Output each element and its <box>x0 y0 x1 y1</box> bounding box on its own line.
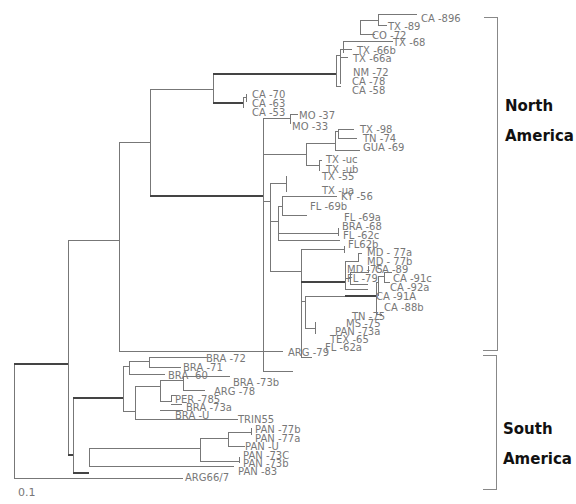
leaf-label: BRA -U <box>175 410 209 421</box>
leaf-label: BRA -60 <box>168 370 208 381</box>
region-label-north-america: North America <box>505 91 574 151</box>
leaf-label: ARG66/7 <box>185 472 229 483</box>
region-label-line: South <box>503 414 572 444</box>
leaf-label: TX -68 <box>392 37 425 48</box>
region-label-line: America <box>505 121 574 151</box>
leaf-label: TX -66a <box>352 53 392 64</box>
leaf-labels: CA -896 TX -89 CO -72 TX -68 TX -66b TX … <box>168 13 461 483</box>
leaf-label: ARG -79 <box>288 347 329 358</box>
leaf-label: TX -55 <box>321 171 354 182</box>
leaf-label: FL -69b <box>310 201 347 212</box>
south-america-bracket <box>483 355 496 489</box>
region-label-south-america: South America <box>503 414 572 474</box>
leaf-label: CA -896 <box>421 13 461 24</box>
leaf-label: CA -58 <box>352 85 385 96</box>
leaf-label: CA -53 <box>252 107 285 118</box>
leaf-label: CA -91A <box>376 291 416 302</box>
leaf-label: PAN -83 <box>238 466 277 477</box>
leaf-label: MO -37 <box>299 110 335 121</box>
phylogenetic-tree: CA -896 TX -89 CO -72 TX -68 TX -66b TX … <box>0 0 576 504</box>
north-america-bracket <box>483 17 497 350</box>
leaf-label: MO -33 <box>292 121 328 132</box>
leaf-label: CA -88b <box>384 302 424 313</box>
region-label-line: North <box>505 91 574 121</box>
leaf-label: GUA -69 <box>363 142 404 153</box>
scale-bar-label: 0.1 <box>18 486 36 499</box>
region-label-line: America <box>503 444 572 474</box>
leaf-label: FL -62a <box>325 342 362 353</box>
leaf-label: FL -79 <box>347 273 378 284</box>
